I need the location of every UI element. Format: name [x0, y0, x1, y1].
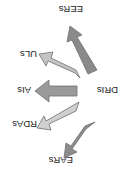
center-label-dris: DRIs: [97, 85, 118, 96]
dri-diagram: DRIs EARs RDAs AIs ULs EERs: [0, 0, 123, 172]
label-eers: EERs: [58, 4, 83, 15]
label-ears: EARs: [48, 155, 73, 166]
label-uls: ULs: [20, 49, 37, 60]
arrow-icon-eers: [67, 26, 97, 74]
label-ais: AIs: [17, 85, 31, 96]
arrow-icon-uls: [39, 52, 80, 78]
arrow-icon-ais: [35, 80, 77, 102]
arrow-icon-ears: [64, 122, 95, 158]
label-rdas: RDAs: [12, 119, 37, 130]
arrow-icon-rdas: [37, 102, 79, 130]
